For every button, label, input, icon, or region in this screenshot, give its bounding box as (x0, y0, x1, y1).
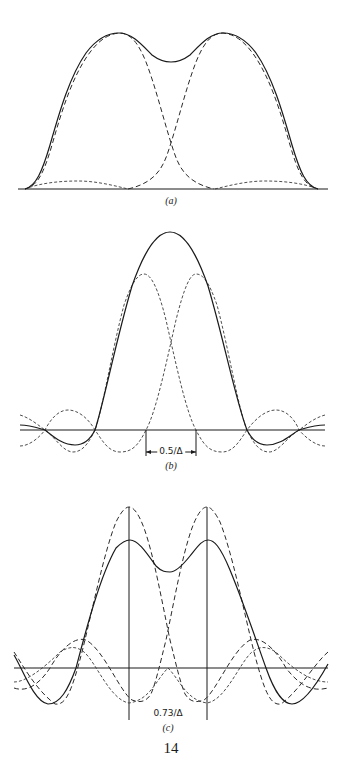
panel-b-sum (20, 232, 325, 445)
panel-a-sidelobe-right (215, 181, 318, 189)
panel-c-separation-label: 0.73/Δ (151, 708, 184, 718)
panel-c-sidelobes (14, 648, 328, 704)
figure-canvas (0, 0, 343, 767)
panel-c-component-right (14, 507, 328, 704)
panel-b-arrowhead-left-icon (146, 450, 151, 454)
panel-c-caption: (c) (162, 722, 173, 733)
panel-c-sum (14, 540, 328, 704)
panel-a-plot (18, 33, 328, 189)
panel-a-sum (25, 33, 318, 189)
panel-c-component-left (14, 507, 328, 704)
panel-b-plot (20, 232, 325, 456)
panel-b-arrowhead-right-icon (191, 450, 196, 454)
panel-a-component-right (128, 33, 318, 189)
panel-a-sidelobe-left (25, 181, 128, 189)
panel-c-plot (14, 507, 328, 720)
page-number: 14 (164, 740, 179, 757)
panel-b-component-left (20, 274, 325, 452)
panel-a-caption: (a) (165, 195, 177, 206)
panel-b-component-right (20, 274, 325, 452)
panel-a-component-left (25, 33, 214, 189)
panel-b-caption: (b) (165, 460, 177, 471)
panel-b-separation-label: 0.5/Δ (157, 446, 185, 456)
